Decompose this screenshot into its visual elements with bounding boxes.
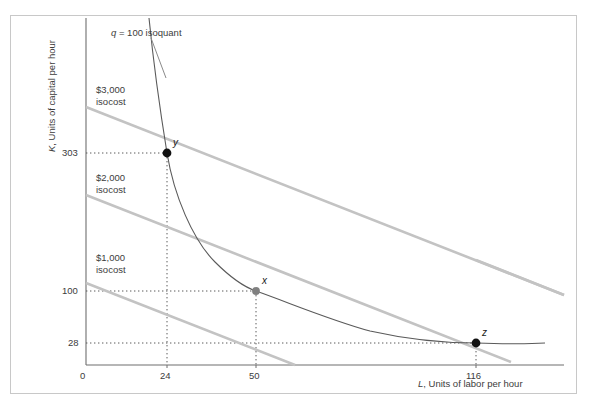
point-label-x: x: [262, 275, 267, 286]
point-label-z: z: [482, 327, 487, 338]
isocost-1000-label-line1: $1,000: [96, 252, 126, 264]
isocost-3000-label-line1: $3,000: [96, 84, 126, 96]
isocost-3000-extension-group: [476, 260, 564, 295]
point-label-y: y: [173, 137, 178, 148]
y-axis-title-text: , Units of capital per hour: [46, 40, 57, 146]
y-axis-title: K, Units of capital per hour: [46, 40, 57, 152]
isoquant-annotation-text: = 100 isoquant: [116, 27, 181, 38]
isocost-1000-label: $1,000 isocost: [96, 252, 126, 276]
x-tick-label-116: 116: [466, 370, 481, 381]
y-tick-label-100: 100: [62, 285, 78, 296]
isocost-3000-label-line2: isocost: [96, 96, 126, 108]
axes-group: [86, 18, 564, 365]
chart-canvas: [0, 0, 589, 409]
isocost-2000-label-line2: isocost: [96, 184, 126, 196]
y-axis-title-symbol: K: [46, 146, 57, 152]
isocost-1000-line: [86, 283, 295, 365]
point-marker-z[interactable]: [472, 339, 481, 348]
isocost-2000-label-line1: $2,000: [96, 172, 126, 184]
isoquant-annotation: q = 100 isoquant: [111, 27, 182, 38]
point-marker-x[interactable]: [252, 287, 260, 295]
isocost-3000-label: $3,000 isocost: [96, 84, 126, 108]
y-tick-label-28: 28: [68, 337, 79, 348]
isocost-3000-extension: [476, 260, 564, 295]
data-points-group: [163, 149, 481, 348]
figure-container: K, Units of capital per hour L, Units of…: [0, 0, 589, 409]
x-tick-label-50: 50: [249, 370, 260, 381]
point-marker-y[interactable]: [163, 149, 172, 158]
isocost-1000-label-line2: isocost: [96, 264, 126, 276]
isoquant-group: [149, 18, 545, 344]
isocost-lines-group: [86, 107, 564, 365]
x-tick-label-24: 24: [160, 370, 171, 381]
x-tick-label-0: 0: [80, 370, 85, 381]
isocost-2000-label: $2,000 isocost: [96, 172, 126, 196]
isocost-2000-line: [86, 195, 511, 362]
y-tick-label-303: 303: [62, 147, 78, 158]
isoquant-curve: [149, 18, 545, 344]
